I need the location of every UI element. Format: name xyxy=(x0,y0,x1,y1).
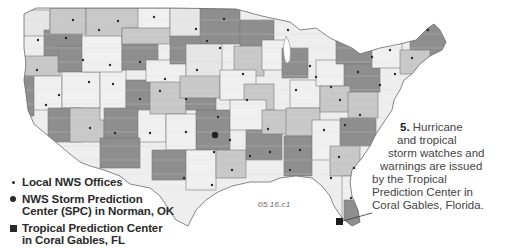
legend-label: Tropical Prediction Center in Coral Gabl… xyxy=(22,222,163,247)
square-icon xyxy=(8,222,18,232)
hurricane-callout: 5. Hurricane and tropical storm watches … xyxy=(372,121,512,212)
figure-code: 05.16.c1 xyxy=(258,200,290,209)
tpc-coral-gables-marker xyxy=(336,218,343,225)
legend-label: NWS Storm Prediction Center (SPC) in Nor… xyxy=(22,193,174,218)
us-nws-map: 05.16.c1 Local NWS Offices NWS Storm Pre… xyxy=(0,0,512,249)
spc-norman-marker xyxy=(212,132,218,138)
legend-label: Local NWS Offices xyxy=(22,176,123,189)
legend-item-local-nws: Local NWS Offices xyxy=(8,176,208,189)
legend-item-tpc: Tropical Prediction Center in Coral Gabl… xyxy=(8,222,208,247)
legend-item-spc: NWS Storm Prediction Center (SPC) in Nor… xyxy=(8,193,208,218)
small-dot-icon xyxy=(8,176,18,184)
callout-number: 5. xyxy=(400,121,410,133)
large-dot-icon xyxy=(8,193,18,202)
map-legend: Local NWS Offices NWS Storm Prediction C… xyxy=(8,176,208,249)
